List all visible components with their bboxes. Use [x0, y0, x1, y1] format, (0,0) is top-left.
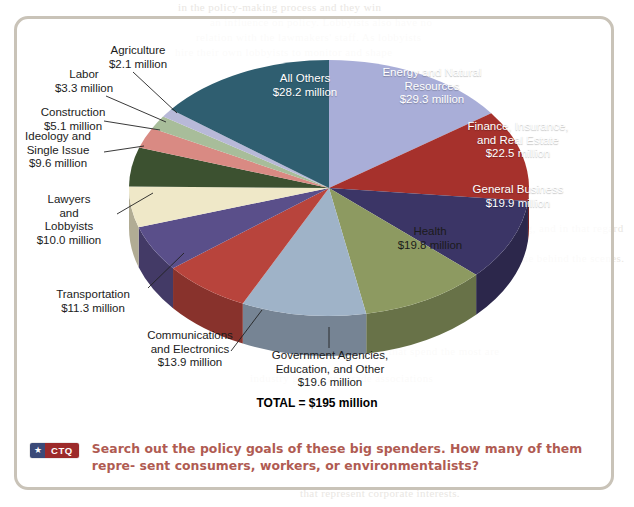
- ctq-badge[interactable]: ★ CTQ: [30, 443, 79, 458]
- label-lawyers: Lawyers and Lobbyists $10.0 million: [26, 193, 112, 247]
- label-communications: Communications and Electronics $13.9 mil…: [135, 329, 245, 370]
- ctq-question-text: Search out the policy goals of these big…: [92, 441, 602, 474]
- ctq-callout: ★ CTQ Search out the policy goals of the…: [30, 441, 602, 474]
- ctq-badge-label: CTQ: [45, 443, 79, 458]
- leader-agriculture: [133, 72, 177, 113]
- label-ideology: Ideology and Single Issue $9.6 million: [13, 130, 103, 171]
- star-icon: ★: [30, 443, 45, 458]
- label-labor: Labor $3.3 million: [36, 68, 132, 95]
- label-government: Government Agencies, Education, and Othe…: [259, 349, 401, 390]
- label-finance: Finance, Insurance, and Real Estate $22.…: [448, 120, 588, 161]
- label-construction: Construction $5.1 million: [18, 106, 128, 133]
- label-all-others: All Others $28.2 million: [245, 72, 365, 99]
- total-label: TOTAL = $195 million: [0, 396, 634, 410]
- label-transportation: Transportation $11.3 million: [38, 288, 148, 315]
- label-energy: Energy and Natural Resources $29.3 milli…: [368, 66, 496, 107]
- pie-chart-area: Energy and Natural Resources $29.3 milli…: [0, 0, 634, 430]
- lobbying-spending-figure: in the policy-making process and they wi…: [0, 0, 634, 507]
- label-general-business: General Business $19.9 million: [448, 183, 588, 210]
- label-health: Health $19.8 million: [378, 225, 482, 252]
- label-agriculture: Agriculture $2.1 million: [90, 44, 186, 71]
